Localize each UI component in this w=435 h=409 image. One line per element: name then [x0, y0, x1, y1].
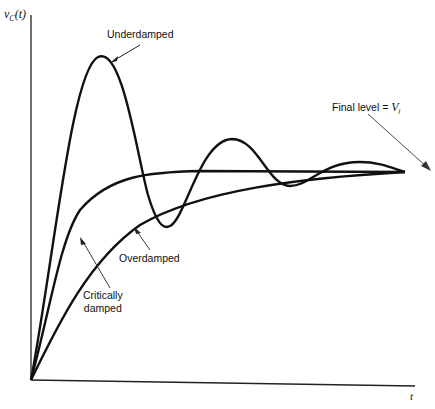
- y-axis-label: vC(t): [4, 8, 26, 25]
- critically-damped-arrow-icon: [80, 237, 110, 288]
- critically-damped-label: Criticallydamped: [83, 289, 123, 315]
- final-level-label: Final level = Vi: [332, 101, 400, 118]
- underdamped-arrow-icon: [110, 45, 140, 63]
- underdamped-label: Underdamped: [107, 28, 174, 40]
- step-response-plot: [0, 0, 435, 409]
- x-axis-label: t: [410, 390, 413, 402]
- x-axis: [31, 380, 415, 386]
- overdamped-label: Overdamped: [119, 252, 180, 264]
- critically-damped-curve: [31, 171, 405, 380]
- overdamped-arrow-icon: [134, 227, 150, 250]
